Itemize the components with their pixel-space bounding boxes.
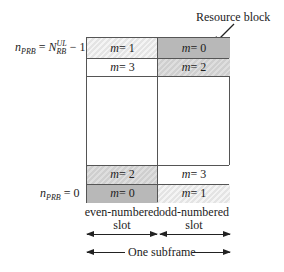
subframe-arrow-left [87, 252, 125, 253]
odd-slot-label: odd-numberedslot [156, 206, 232, 232]
top-prb-label: nPRB = NULRB − 1 [15, 40, 85, 56]
even-slot-label: even-numberedslot [84, 206, 160, 232]
cell-even-row2: m = 2 [87, 165, 158, 184]
row-divider [87, 58, 229, 59]
even-slot-arrow [87, 234, 157, 235]
row-divider [87, 76, 229, 77]
row-divider [87, 165, 229, 166]
odd-slot-arrow [160, 234, 230, 235]
subframe-label: One subframe [128, 245, 196, 260]
subframe-arrow-right [192, 252, 230, 253]
cell-even-row1: m = 3 [87, 58, 158, 76]
bottom-prb-label: nPRB = 0 [40, 186, 79, 202]
cell-even-row3: m = 0 [87, 184, 158, 203]
slot-divider [157, 38, 158, 202]
row-divider [87, 184, 229, 185]
resource-grid: m = 1 m = 0 m = 3 m = 2 m = 2 m = 3 m = … [86, 37, 230, 203]
cell-odd-row2: m = 3 [158, 165, 230, 184]
cell-even-row0: m = 1 [87, 38, 158, 58]
cell-odd-row3: m = 1 [158, 184, 230, 203]
cell-odd-row0: m = 0 [158, 38, 230, 58]
cell-odd-row1: m = 2 [158, 58, 230, 76]
